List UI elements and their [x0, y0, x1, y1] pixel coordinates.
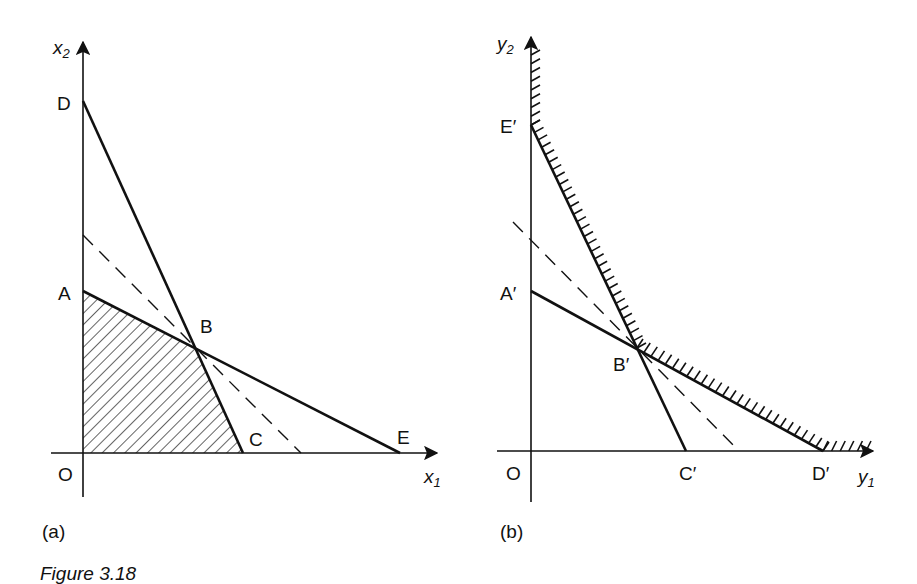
- feasible-region-hatch: [83, 291, 243, 453]
- point-C-label: C: [249, 430, 263, 449]
- x2-axis-label: x2: [53, 38, 70, 60]
- origin-label-b: O: [506, 464, 521, 483]
- point-A-label: A: [58, 284, 71, 303]
- line-A'D': [531, 291, 823, 451]
- origin-label-a: O: [58, 465, 73, 484]
- point-C-prime-label: C′: [679, 464, 696, 483]
- point-A-prime-label: A′: [500, 284, 516, 303]
- y2-axis-label: y2: [497, 34, 514, 56]
- panel-b-tag: (b): [500, 522, 523, 541]
- point-B-label: B: [200, 317, 213, 336]
- figure-canvas: [0, 0, 917, 584]
- x1-axis-label: x1: [424, 467, 441, 489]
- figure-caption: Figure 3.18: [40, 563, 136, 584]
- panel-a: [51, 42, 437, 497]
- objective-dashed-line-b: [513, 222, 739, 451]
- point-E-prime-label: E′: [500, 117, 516, 136]
- panel-b: [497, 37, 873, 502]
- panel-a-tag: (a): [42, 522, 65, 541]
- feasible-boundary-hatch: [531, 50, 871, 451]
- point-E-label: E: [397, 428, 410, 447]
- y1-axis-label: y1: [858, 467, 875, 489]
- point-B-prime-label: B′: [613, 355, 629, 374]
- point-D-prime-label: D′: [812, 464, 829, 483]
- point-D-label: D: [57, 94, 71, 113]
